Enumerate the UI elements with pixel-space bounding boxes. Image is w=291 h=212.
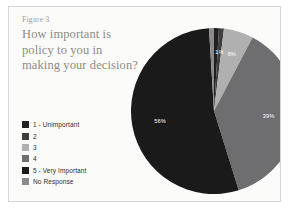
legend-swatch-icon [22,144,29,151]
legend-item-label: 2 [33,133,37,140]
pie-slice-percent-label: 39% [263,113,275,119]
figure-card: Figure 3 How important is policy to you … [8,6,281,202]
legend-item-label: 4 [33,155,37,162]
pie-slice-percent-label: 56% [154,118,166,124]
chart-legend: 1 - Unimportant 2 3 4 5 - Very Important… [22,119,142,187]
legend-item-no-response: No Response [22,176,142,187]
pie-slice-percent-label: 1% [215,49,223,55]
legend-swatch-icon [22,121,29,128]
legend-item-label: 1 - Unimportant [33,121,79,128]
pie-chart: 1%6%39%56% [131,25,281,197]
legend-item-1-unimportant: 1 - Unimportant [22,119,142,130]
figure-title-block: Figure 3 How important is policy to you … [22,15,140,74]
legend-item-label: No Response [33,178,73,185]
legend-item-2: 2 [22,130,142,141]
legend-swatch-icon [22,155,29,162]
figure-question-title: How important is policy to you in making… [22,27,140,74]
pie-slice-group [131,28,281,194]
legend-swatch-icon [22,133,29,140]
legend-item-3: 3 [22,142,142,153]
legend-item-4: 4 [22,153,142,164]
figure-number-label: Figure 3 [22,15,140,24]
legend-swatch-icon [22,167,29,174]
legend-item-label: 3 [33,144,37,151]
pie-chart-svg: 1%6%39%56% [131,25,281,197]
legend-item-label: 5 - Very Important [33,167,86,174]
legend-item-5-very-important: 5 - Very Important [22,165,142,176]
legend-swatch-icon [22,178,29,185]
pie-slice-percent-label: 6% [228,51,236,57]
